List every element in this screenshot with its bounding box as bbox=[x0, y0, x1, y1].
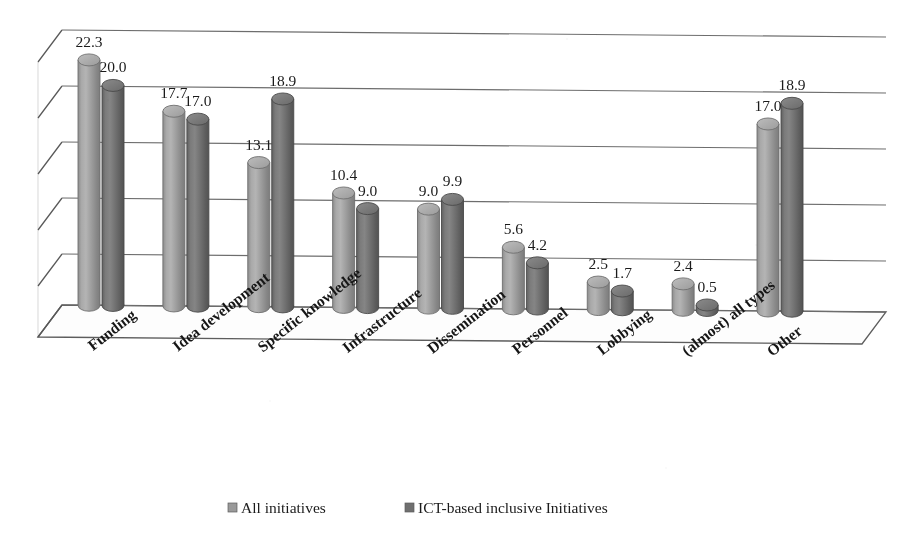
bar-all-initiatives-0 bbox=[78, 54, 100, 311]
bar-ict-based-0 bbox=[102, 79, 124, 311]
bar-ict-based-2 bbox=[272, 93, 294, 313]
chart-container: 22.320.017.717.013.118.910.49.09.09.95.6… bbox=[0, 0, 900, 557]
cylinder-body bbox=[526, 263, 548, 309]
bar-ict-based-7 bbox=[696, 299, 718, 317]
cylinder-body bbox=[102, 85, 124, 305]
value-label-s2-3: 9.0 bbox=[358, 182, 378, 199]
value-label-s2-5: 4.2 bbox=[528, 236, 547, 253]
chart-legend: All initiativesICT-based inclusive Initi… bbox=[228, 499, 608, 516]
cylinder-body bbox=[163, 111, 185, 306]
cylinder-cap bbox=[611, 285, 633, 297]
bar-chart-svg: 22.320.017.717.013.118.910.49.09.09.95.6… bbox=[0, 0, 900, 557]
legend-label-1: ICT-based inclusive Initiatives bbox=[418, 499, 608, 516]
value-label-s1-5: 5.6 bbox=[504, 220, 524, 237]
cylinder-cap bbox=[502, 241, 524, 253]
value-label-s1-0: 22.3 bbox=[75, 33, 102, 50]
gridline-25 bbox=[62, 30, 886, 37]
value-label-s1-6: 2.5 bbox=[589, 255, 609, 272]
cylinder-cap bbox=[102, 79, 124, 91]
bar-ict-based-3 bbox=[357, 203, 379, 314]
cylinder-body bbox=[781, 103, 803, 311]
value-label-s1-8: 17.0 bbox=[754, 97, 781, 114]
value-label-s1-2: 13.1 bbox=[245, 136, 272, 153]
legend-item-1[interactable]: ICT-based inclusive Initiatives bbox=[405, 499, 608, 516]
value-label-s1-4: 9.0 bbox=[419, 182, 439, 199]
cylinder-cap bbox=[333, 187, 355, 199]
cylinder-cap bbox=[78, 54, 100, 66]
cylinder-body bbox=[78, 60, 100, 305]
cylinder-cap bbox=[357, 203, 379, 215]
bar-ict-based-6 bbox=[611, 285, 633, 316]
cylinder-cap bbox=[272, 93, 294, 105]
value-label-s1-3: 10.4 bbox=[330, 166, 357, 183]
cylinder-cap bbox=[587, 276, 609, 288]
value-label-s2-1: 17.0 bbox=[184, 92, 211, 109]
bar-ict-based-1 bbox=[187, 113, 209, 312]
cylinder-cap bbox=[526, 257, 548, 269]
value-label-s1-7: 2.4 bbox=[673, 257, 693, 274]
bar-all-initiatives-7 bbox=[672, 278, 694, 316]
cylinder-body bbox=[187, 119, 209, 306]
cylinder-cap bbox=[418, 203, 440, 215]
bar-ict-based-8 bbox=[781, 97, 803, 317]
left-wall-edges bbox=[38, 30, 62, 337]
value-label-s2-2: 18.9 bbox=[269, 72, 296, 89]
cylinder-cap bbox=[163, 105, 185, 117]
cylinder-body bbox=[357, 209, 379, 308]
cylinder-cap bbox=[696, 299, 718, 311]
value-label-s2-6: 1.7 bbox=[613, 264, 633, 281]
value-label-s2-4: 9.9 bbox=[443, 172, 463, 189]
legend-swatch-0 bbox=[228, 503, 237, 512]
value-label-s2-7: 0.5 bbox=[697, 278, 717, 295]
legend-item-0[interactable]: All initiatives bbox=[228, 499, 326, 516]
value-label-s2-8: 18.9 bbox=[778, 76, 805, 93]
cylinder-cap bbox=[442, 193, 464, 205]
cylinder-cap bbox=[757, 118, 779, 130]
cylinder-body bbox=[272, 99, 294, 307]
value-label-s2-0: 20.0 bbox=[99, 58, 126, 75]
bar-all-initiatives-6 bbox=[587, 276, 609, 316]
cylinder-cap bbox=[187, 113, 209, 125]
bar-all-initiatives-1 bbox=[163, 105, 185, 312]
legend-swatch-1 bbox=[405, 503, 414, 512]
cylinder-cap bbox=[672, 278, 694, 290]
bar-all-initiatives-5 bbox=[502, 241, 524, 315]
cylinder-body bbox=[442, 199, 464, 308]
cylinder-cap bbox=[248, 157, 270, 169]
cylinder-cap bbox=[781, 97, 803, 109]
bar-ict-based-5 bbox=[526, 257, 548, 315]
bar-ict-based-4 bbox=[442, 193, 464, 314]
legend-label-0: All initiatives bbox=[241, 499, 326, 516]
